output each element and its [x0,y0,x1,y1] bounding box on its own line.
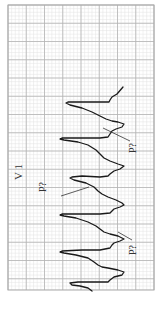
p-wave-annotation: P? [127,142,138,153]
p-wave-annotation: P? [37,181,48,192]
lead-label: V 1 [12,164,24,180]
p-wave-annotation: P? [127,244,138,255]
ecg-strip: P?P?P? V 1 [0,0,161,315]
